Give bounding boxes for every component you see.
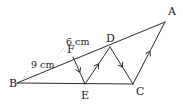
segment-DC xyxy=(110,47,133,84)
measure-label-BF: 9 cm xyxy=(31,59,54,70)
leader-FD xyxy=(57,48,64,56)
vertex-label-F: F xyxy=(67,43,75,56)
geometry-figure: 9 cm6 cm ABCDEF xyxy=(0,0,183,105)
vertex-label-D: D xyxy=(106,32,115,45)
figure-edges xyxy=(17,22,165,84)
segment-FE xyxy=(73,57,85,84)
vertex-label-A: A xyxy=(167,5,177,18)
vertex-label-C: C xyxy=(136,85,144,98)
vertex-labels: ABCDEF xyxy=(9,5,177,102)
segment-ED xyxy=(85,47,110,84)
segment-BA xyxy=(17,22,165,83)
segment-BC xyxy=(17,83,133,84)
geometry-canvas: 9 cm6 cm ABCDEF xyxy=(0,0,183,105)
vertex-label-E: E xyxy=(81,89,89,102)
vertex-label-B: B xyxy=(9,77,17,90)
segment-CA xyxy=(133,22,165,84)
